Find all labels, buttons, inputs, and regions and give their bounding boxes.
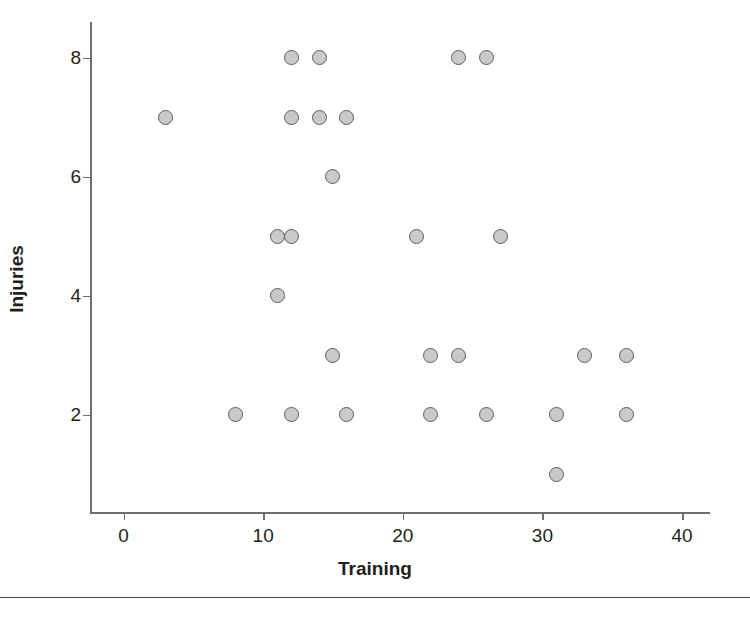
data-point-marker xyxy=(451,50,466,65)
y-axis-tick xyxy=(83,58,90,60)
data-point-marker xyxy=(284,50,299,65)
y-axis-title-label: Injuries xyxy=(6,245,28,313)
x-axis-tick xyxy=(682,513,684,520)
y-axis-tick-label: 2 xyxy=(70,404,81,426)
data-point-marker xyxy=(423,407,438,422)
data-point-marker xyxy=(312,50,327,65)
data-point-marker xyxy=(619,348,634,363)
data-point-marker xyxy=(479,50,494,65)
data-point-marker xyxy=(284,110,299,125)
x-axis-tick xyxy=(542,513,544,520)
data-point-marker xyxy=(312,110,327,125)
scatter-plot-figure: Injuries 2468010203040 Training xyxy=(0,0,750,617)
data-point-marker xyxy=(284,407,299,422)
y-axis-tick-label: 6 xyxy=(70,166,81,188)
data-point-marker xyxy=(549,467,564,482)
data-point-marker xyxy=(325,348,340,363)
data-point-marker xyxy=(493,229,508,244)
x-axis-tick-label: 20 xyxy=(392,525,413,547)
data-point-marker xyxy=(423,348,438,363)
data-point-marker xyxy=(577,348,592,363)
data-point-marker xyxy=(325,169,340,184)
y-axis-tick xyxy=(83,177,90,179)
y-axis-tick xyxy=(83,296,90,298)
x-axis-tick-label: 10 xyxy=(253,525,274,547)
x-axis-tick xyxy=(403,513,405,520)
data-point-marker xyxy=(451,348,466,363)
y-axis-tick-label: 8 xyxy=(70,47,81,69)
plot-area: 2468010203040 xyxy=(90,22,710,513)
data-point-marker xyxy=(619,407,634,422)
y-axis-tick-label: 4 xyxy=(70,285,81,307)
data-point-marker xyxy=(270,229,285,244)
data-point-marker xyxy=(228,407,243,422)
data-point-marker xyxy=(409,229,424,244)
x-axis-tick-label: 40 xyxy=(671,525,692,547)
data-point-marker xyxy=(270,288,285,303)
y-axis-title: Injuries xyxy=(2,0,32,617)
x-axis-tick xyxy=(263,513,265,520)
data-point-marker xyxy=(158,110,173,125)
footer-divider xyxy=(0,597,750,598)
y-axis-tick xyxy=(83,415,90,417)
x-axis-tick xyxy=(124,513,126,520)
data-point-marker xyxy=(284,229,299,244)
data-point-marker xyxy=(549,407,564,422)
data-point-marker xyxy=(479,407,494,422)
x-axis-tick-label: 0 xyxy=(118,525,129,547)
x-axis-title: Training xyxy=(0,558,750,580)
data-point-marker xyxy=(339,407,354,422)
x-axis-tick-label: 30 xyxy=(532,525,553,547)
data-point-marker xyxy=(339,110,354,125)
